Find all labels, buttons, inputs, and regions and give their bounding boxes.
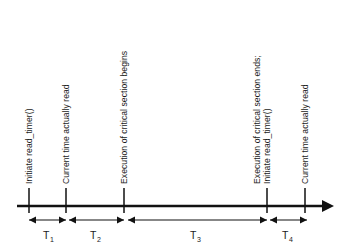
interval-arrow-right-t2-icon	[117, 217, 124, 224]
event-label-reinitiate-read-timer: Initiate read_timer()	[262, 108, 272, 184]
event-label-initiate-read-timer-first: Initiate read_timer()	[24, 108, 34, 184]
timeline-diagram: Initiate read_timer() Current time actua…	[0, 0, 351, 250]
event-label-current-time-read-second: Current time actually read	[300, 84, 310, 184]
interval-arrow-left-t4-icon	[270, 217, 277, 224]
interval-subscript-t4: 4	[289, 236, 293, 243]
interval-label-t3: T	[190, 229, 197, 241]
interval-label-t2: T	[90, 229, 97, 241]
interval-measure-t2: T 2	[69, 217, 124, 243]
event-label-critical-section-ends: Execution of critical section ends;	[252, 55, 262, 184]
interval-subscript-t2: 2	[97, 236, 101, 243]
time-axis-arrow-icon	[322, 200, 334, 212]
interval-measure-t4: T 4	[270, 217, 307, 243]
interval-measure-t3: T 3	[128, 217, 267, 243]
interval-measure-t1: T 1	[29, 217, 66, 243]
interval-subscript-t1: 1	[50, 236, 54, 243]
interval-subscript-t3: 3	[197, 236, 201, 243]
interval-label-t1: T	[43, 229, 50, 241]
time-axis-group	[17, 200, 334, 212]
interval-arrow-right-t1-icon	[59, 217, 66, 224]
event-label-critical-section-begins: Execution of critical section begins	[119, 51, 129, 184]
interval-arrow-left-t2-icon	[69, 217, 76, 224]
interval-arrow-left-t3-icon	[128, 217, 135, 224]
interval-arrow-right-t3-icon	[260, 217, 267, 224]
interval-arrow-left-t1-icon	[29, 217, 36, 224]
interval-arrow-right-t4-icon	[300, 217, 307, 224]
interval-measures-group: T 1 T 2 T 3 T 4	[29, 217, 307, 243]
event-label-current-time-read-first: Current time actually read	[61, 84, 71, 184]
interval-label-t4: T	[282, 229, 289, 241]
event-ticks-group	[29, 188, 305, 213]
timeline-diagram-canvas: Initiate read_timer() Current time actua…	[0, 0, 351, 250]
event-labels-group: Initiate read_timer() Current time actua…	[24, 51, 310, 184]
